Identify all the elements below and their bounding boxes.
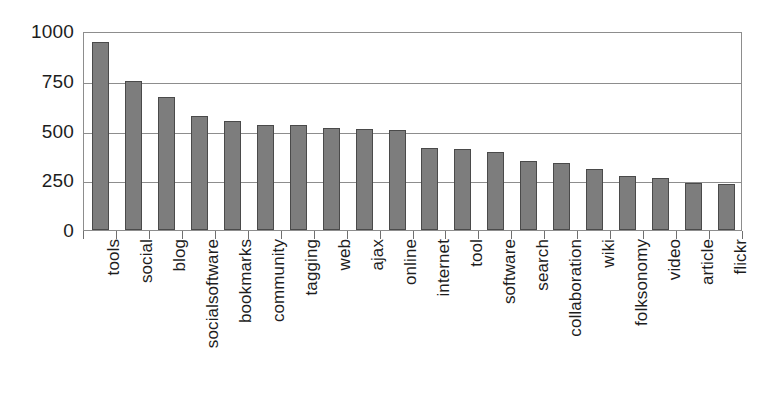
x-axis-tick-label: ajax xyxy=(369,239,386,271)
x-axis-tick-label: tool xyxy=(468,239,485,267)
bar xyxy=(619,176,636,230)
x-axis-tick-label: flickr xyxy=(732,239,749,275)
x-axis-tick xyxy=(709,231,710,239)
x-axis-tick-label: video xyxy=(666,239,683,280)
x-axis-tick xyxy=(511,231,512,239)
bar xyxy=(586,169,603,230)
x-axis-tick-label: tools xyxy=(105,239,122,275)
y-axis-tick-label: 0 xyxy=(0,221,74,240)
x-axis-tick xyxy=(149,231,150,239)
bars-series xyxy=(84,33,741,230)
x-axis-tick-label: collaboration xyxy=(567,239,584,337)
x-axis-tick-label: social xyxy=(138,239,155,283)
x-axis-tick xyxy=(643,231,644,239)
bar xyxy=(290,125,307,230)
x-axis-tick-label: online xyxy=(402,239,419,285)
x-axis-tick xyxy=(544,231,545,239)
x-axis-tick-label: tagging xyxy=(303,239,320,295)
y-axis-tick-label: 750 xyxy=(0,72,74,91)
bar xyxy=(421,148,438,230)
x-axis-tick-label: article xyxy=(699,239,716,285)
bar xyxy=(257,125,274,230)
x-axis-tick xyxy=(676,231,677,239)
x-axis-tick-label: community xyxy=(270,239,287,322)
bar xyxy=(454,149,471,230)
x-axis-tick-label: folksonomy xyxy=(633,239,650,326)
bar xyxy=(652,178,669,230)
x-axis-tick-label: search xyxy=(534,239,551,291)
bar xyxy=(520,161,537,230)
x-axis-tick-label: wiki xyxy=(600,239,617,268)
x-axis-tick-label: bookmarks xyxy=(237,239,254,323)
bar-chart: 02505007501000 toolssocialblogsocialsoft… xyxy=(0,0,778,399)
x-axis-tick xyxy=(248,231,249,239)
x-axis-tick xyxy=(413,231,414,239)
x-axis-tick-label: software xyxy=(501,239,518,304)
x-axis-ticks xyxy=(83,231,743,239)
y-axis-tick-label: 1000 xyxy=(0,22,74,41)
x-axis-tick-label: blog xyxy=(171,239,188,272)
x-axis-tick xyxy=(478,231,479,239)
bar xyxy=(224,121,241,230)
x-axis-tick xyxy=(215,231,216,239)
y-axis-tick-label: 250 xyxy=(0,171,74,190)
bar xyxy=(356,129,373,230)
bar xyxy=(553,163,570,230)
bar xyxy=(685,183,702,230)
x-axis-tick xyxy=(116,231,117,239)
bar xyxy=(323,128,340,230)
bar xyxy=(389,130,406,230)
x-axis-tick xyxy=(314,231,315,239)
x-axis-tick xyxy=(182,231,183,239)
bar xyxy=(191,116,208,230)
y-axis-tick-label: 500 xyxy=(0,122,74,141)
bar xyxy=(718,184,735,230)
plot-area xyxy=(83,32,742,231)
x-axis-tick xyxy=(83,231,84,239)
x-axis-tick-label: web xyxy=(336,239,353,271)
x-axis-tick-labels: toolssocialblogsocialsoftwarebookmarksco… xyxy=(83,239,743,399)
bar xyxy=(92,42,109,230)
x-axis-tick-label: socialsoftware xyxy=(204,239,221,348)
x-axis-tick xyxy=(281,231,282,239)
y-axis-tick-labels: 02505007501000 xyxy=(0,0,74,399)
x-axis-tick xyxy=(577,231,578,239)
bar xyxy=(158,97,175,230)
x-axis-tick-label: internet xyxy=(435,239,452,297)
bar xyxy=(125,81,142,230)
bar xyxy=(487,152,504,230)
